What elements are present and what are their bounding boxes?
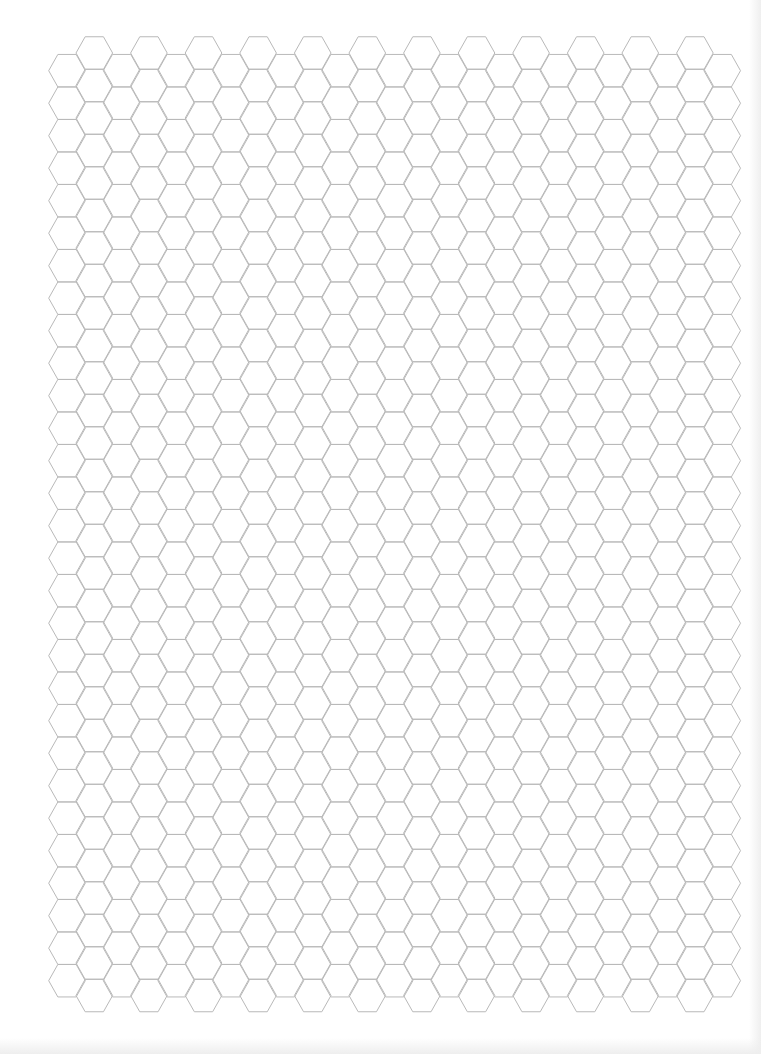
hexagon-grid <box>0 0 761 1054</box>
hex-cell <box>513 979 550 1012</box>
hex-cell <box>294 979 331 1012</box>
hex-cell <box>76 979 113 1012</box>
hex-cell <box>677 979 714 1012</box>
hex-cell <box>404 979 441 1012</box>
scan-edge-shadow-right <box>749 0 761 1054</box>
hex-cell <box>185 979 222 1012</box>
hex-cell <box>567 979 604 1012</box>
hex-cell <box>240 979 277 1012</box>
scan-edge-shadow-bottom <box>0 1038 761 1054</box>
hex-cell <box>349 979 386 1012</box>
hex-cell <box>458 979 495 1012</box>
hex-cell <box>622 979 659 1012</box>
hex-cell <box>131 979 168 1012</box>
hex-cells <box>49 37 741 1012</box>
graph-paper-sheet <box>0 0 761 1054</box>
